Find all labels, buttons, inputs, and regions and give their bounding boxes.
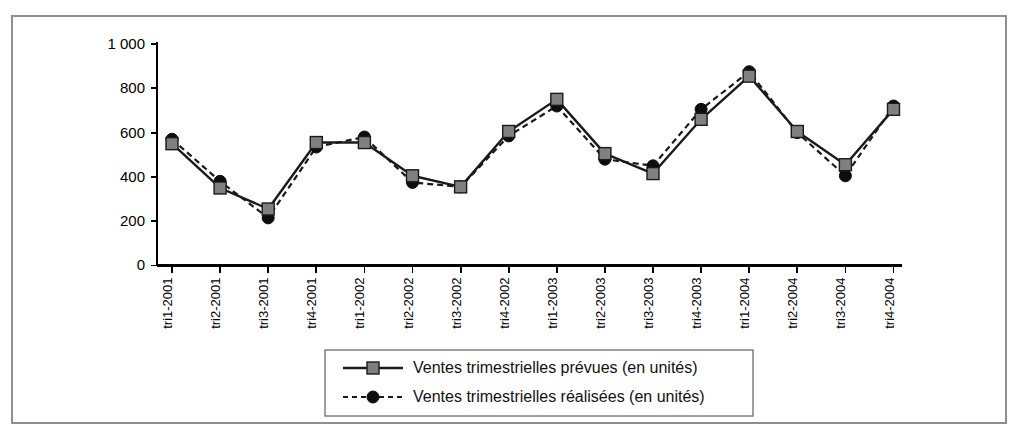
data-point-prevues — [310, 137, 322, 149]
chart-figure: 02004006008001 000tri1-2001tri2-2001tri3… — [0, 0, 1024, 437]
data-point-prevues — [262, 203, 274, 215]
x-axis-tick-label: tri1-2003 — [545, 278, 560, 329]
x-axis-tick-label: tri4-2003 — [689, 278, 704, 329]
data-point-prevues — [647, 168, 659, 180]
legend-label: Ventes trimestrielles prévues (en unités… — [413, 359, 698, 376]
legend-marker-square-icon — [367, 362, 379, 374]
data-point-prevues — [791, 125, 803, 137]
data-point-prevues — [407, 170, 419, 182]
y-axis-tick-label: 400 — [120, 168, 145, 185]
x-axis-tick-label: tri3-2004 — [833, 278, 848, 329]
y-axis-tick-label: 800 — [120, 79, 145, 96]
data-point-prevues — [743, 70, 755, 82]
x-axis-tick-label: tri1-2002 — [352, 278, 367, 329]
data-point-prevues — [695, 113, 707, 125]
line-chart-plot: 02004006008001 000tri1-2001tri2-2001tri3… — [0, 0, 1024, 437]
data-point-prevues — [888, 103, 900, 115]
x-axis-tick-label: tri2-2002 — [401, 278, 416, 329]
x-axis-tick-label: tri2-2003 — [593, 278, 608, 329]
x-axis-tick-label: tri4-2001 — [304, 278, 319, 329]
data-point-prevues — [214, 182, 226, 194]
x-axis-tick-label: tri2-2004 — [785, 278, 800, 329]
x-axis-tick-label: tri3-2003 — [641, 278, 656, 329]
x-axis-tick-label: tri3-2001 — [256, 278, 271, 329]
data-point-prevues — [358, 137, 370, 149]
data-point-prevues — [599, 148, 611, 160]
data-point-prevues — [455, 181, 467, 193]
y-axis-tick-label: 600 — [120, 124, 145, 141]
x-axis-tick-label: tri3-2002 — [449, 278, 464, 329]
x-axis-tick-label: tri4-2002 — [497, 278, 512, 329]
y-axis-tick-label: 1 000 — [107, 35, 145, 52]
data-point-prevues — [839, 159, 851, 171]
legend-marker-circle-icon — [367, 391, 379, 403]
x-axis-tick-label: tri4-2004 — [882, 278, 897, 329]
y-axis-tick-label: 0 — [137, 256, 145, 273]
series-line-prevues — [172, 76, 894, 209]
series-line-realisees — [172, 72, 894, 218]
x-axis-tick-label: tri1-2004 — [737, 278, 752, 329]
data-point-prevues — [503, 125, 515, 137]
legend-label: Ventes trimestrielles réalisées (en unit… — [413, 388, 705, 405]
x-axis-tick-label: tri2-2001 — [208, 278, 223, 329]
data-point-prevues — [166, 138, 178, 150]
x-axis-tick-label: tri1-2001 — [160, 278, 175, 329]
y-axis-tick-label: 200 — [120, 212, 145, 229]
data-point-prevues — [551, 93, 563, 105]
data-point-realisees — [839, 170, 851, 182]
